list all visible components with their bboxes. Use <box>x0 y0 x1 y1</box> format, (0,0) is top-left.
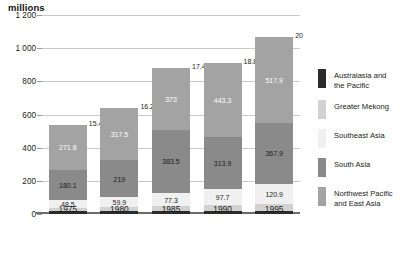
bar-segment: 271.8 <box>49 125 87 170</box>
bar-segment: 317.5 <box>100 108 138 161</box>
segment-value-label: 219 <box>100 175 138 182</box>
legend-label: Australasia and the Pacific <box>334 68 398 90</box>
bar-1995[interactable]: 517.9367.9120.940.720 <box>255 37 293 214</box>
segment-value-label: 271.8 <box>49 144 87 151</box>
legend-swatch <box>318 158 326 177</box>
legend-label: South Asia <box>334 157 398 170</box>
legend-item[interactable]: Greater Mekong <box>318 99 398 119</box>
legend-item[interactable]: Southeast Asia <box>318 128 398 148</box>
bar-segment: 313.9 <box>204 137 242 189</box>
segment-value-label: 367.9 <box>255 150 293 157</box>
legend-item[interactable]: Australasia and the Pacific <box>318 68 398 90</box>
legend-label: Northwest Pacific and East Asia <box>334 186 398 208</box>
y-axis-tick-label: 600 <box>2 110 36 119</box>
y-axis-tick-label: 0 <box>2 210 36 219</box>
legend-swatch <box>318 187 326 206</box>
bar-segment: 120.9 <box>255 184 293 204</box>
bar-segment: 219 <box>100 160 138 196</box>
bar-segment: 383.5 <box>152 130 190 194</box>
y-axis-tick-mark <box>37 115 42 116</box>
y-axis-tick-mark <box>37 214 42 215</box>
y-axis-tick-label: 400 <box>2 143 36 152</box>
segment-value-label: 517.9 <box>255 76 293 83</box>
plot-area: 02004006008001 0001 200271.8180.148.523.… <box>42 15 300 214</box>
bar-segment: 373 <box>152 68 190 130</box>
y-axis-tick-label: 1 000 <box>2 44 36 53</box>
y-axis-tick-mark <box>37 181 42 182</box>
y-axis-tick-mark <box>37 48 42 49</box>
legend-swatch <box>318 129 326 148</box>
legend-label: Southeast Asia <box>334 128 398 141</box>
legend-item[interactable]: South Asia <box>318 157 398 177</box>
y-axis-tick-label: 200 <box>2 176 36 185</box>
x-axis-tick-label: 1995 <box>244 204 304 214</box>
y-axis-tick-label: 1 200 <box>2 11 36 20</box>
bar-segment: 367.9 <box>255 123 293 184</box>
bar-segment: 180.1 <box>49 170 87 200</box>
legend-swatch <box>318 100 326 119</box>
segment-value-label: 180.1 <box>49 181 87 188</box>
segment-value-label: 97.7 <box>204 193 242 200</box>
bar-1980[interactable]: 317.521959.927.816.2 <box>100 108 138 214</box>
y-axis-tick-label: 800 <box>2 77 36 86</box>
bar-1985[interactable]: 373383.577.331.517.4 <box>152 68 190 214</box>
segment-value-label: 373 <box>152 95 190 102</box>
top-segment-callout-label: 20 <box>295 32 303 39</box>
chart-legend: Australasia and the PacificGreater Mekon… <box>318 68 398 218</box>
legend-item[interactable]: Northwest Pacific and East Asia <box>318 186 398 208</box>
bar-1990[interactable]: 443.3313.997.73618.8 <box>204 63 242 214</box>
segment-value-label: 77.3 <box>152 196 190 203</box>
segment-value-label: 317.5 <box>100 131 138 138</box>
bar-segment: 443.3 <box>204 63 242 137</box>
segment-value-label: 383.5 <box>152 158 190 165</box>
segment-value-label: 443.3 <box>204 96 242 103</box>
y-axis-tick-mark <box>37 148 42 149</box>
segment-value-label: 313.9 <box>204 159 242 166</box>
segment-value-label: 120.9 <box>255 190 293 197</box>
gridline <box>42 15 300 16</box>
bar-segment: 517.9 <box>255 37 293 123</box>
legend-swatch <box>318 69 326 88</box>
y-axis-tick-mark <box>37 81 42 82</box>
legend-label: Greater Mekong <box>334 99 398 112</box>
chart-figure: millions 02004006008001 0001 200271.8180… <box>0 0 400 260</box>
y-axis-tick-mark <box>37 15 42 16</box>
bar-segment: 97.7 <box>204 189 242 205</box>
bar-1975[interactable]: 271.8180.148.523.615.4 <box>49 125 87 214</box>
